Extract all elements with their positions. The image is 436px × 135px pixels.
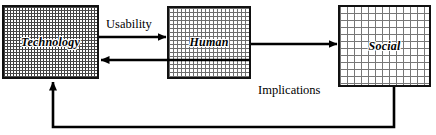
node-technology[interactable]: Technology [2,5,99,79]
node-technology-label: Technology [21,35,80,50]
diagram-canvas: Technology Human Social Usab [0,0,436,135]
edge-label-implications: Implications [258,83,321,97]
node-social-label: Social [369,39,401,54]
edge-label-usability: Usability [106,17,152,31]
edge-social-to-technology [53,82,394,127]
node-human-label: Human [189,35,228,50]
node-social[interactable]: Social [338,5,431,87]
node-human[interactable]: Human [167,6,251,79]
